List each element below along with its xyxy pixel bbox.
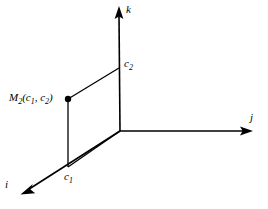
- figure-canvas: k j i c2 c1 M2(c1, c2): [0, 0, 268, 209]
- m2-close-paren: ): [49, 91, 53, 103]
- m2-base: M: [9, 91, 18, 103]
- c2-subscript: 2: [129, 63, 133, 72]
- parallelogram-edge-bottom: [68, 131, 120, 167]
- point-m2-marker: [65, 96, 71, 102]
- j-axis-label: j: [250, 112, 253, 123]
- parallelogram-edge-top: [68, 68, 119, 99]
- k-axis-line: [119, 16, 120, 131]
- i-axis-label: i: [5, 179, 8, 190]
- c1-subscript: 1: [69, 176, 73, 185]
- c2-label: c2: [124, 58, 133, 71]
- k-axis-label: k: [126, 4, 131, 15]
- c1-label: c1: [64, 171, 73, 184]
- point-m2-label: M2(c1, c2): [9, 92, 53, 105]
- i-axis-arrowhead: [21, 184, 36, 195]
